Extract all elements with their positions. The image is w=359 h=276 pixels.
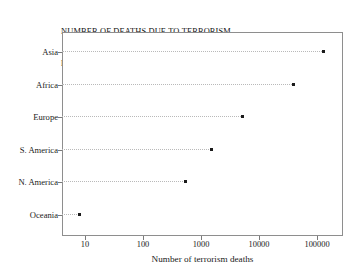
x-axis-tick-label: 10000 [249,240,270,250]
connector-line [62,214,79,216]
chart-figure: NUMBER OF DEATHS DUE TO TERRORISM BY CON… [0,0,359,276]
x-axis-tick-label: 100000 [304,240,329,250]
y-axis-label-s-america: S. America [20,145,58,155]
x-axis-tick-label: 10 [81,240,89,250]
x-axis-title: Number of terrorism deaths [62,254,343,264]
connector-line [62,84,294,86]
y-axis-label-africa: Africa [36,80,58,90]
plot-area [62,32,343,236]
y-axis-label-n-america: N. America [18,177,58,187]
data-point-marker[interactable] [322,50,325,53]
data-point-marker[interactable] [241,115,244,118]
data-point-marker[interactable] [210,148,213,151]
data-point-marker[interactable] [184,180,187,183]
y-axis-labels: Asia Africa Europe S. America N. America… [0,32,58,236]
connector-line [62,116,243,118]
connector-line [62,51,324,53]
data-point-marker[interactable] [292,83,295,86]
data-point-marker[interactable] [78,213,81,216]
x-axis-tick-label: 100 [137,240,150,250]
y-axis-label-europe: Europe [33,112,58,122]
connector-line [62,181,185,183]
x-axis-tick-label: 1000 [193,240,210,250]
connector-line [62,149,211,151]
y-axis-label-asia: Asia [42,47,58,57]
y-axis-label-oceania: Oceania [30,210,58,220]
